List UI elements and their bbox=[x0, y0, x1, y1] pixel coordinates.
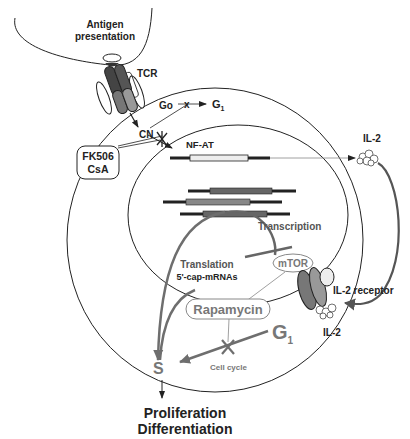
rapamycin-to-mtor-line bbox=[245, 272, 285, 302]
gene-bar-1 bbox=[210, 188, 272, 194]
translation-label: Translation bbox=[180, 259, 233, 270]
t-cell-signaling-diagram: Antigen presentation TCR CN Go x G1 FK50… bbox=[0, 0, 410, 439]
t-cell-membrane bbox=[67, 88, 363, 392]
g1-top-label: G1 bbox=[212, 98, 225, 112]
block-x-go: x bbox=[184, 99, 190, 110]
il2-bottom-label: IL-2 bbox=[323, 327, 341, 338]
s-phase-label: S bbox=[153, 360, 164, 377]
transcription-arc bbox=[225, 212, 275, 255]
csa-label: CsA bbox=[87, 163, 108, 175]
main-grey-arc bbox=[158, 212, 225, 360]
translation-arc bbox=[160, 290, 195, 360]
gene-bar-2 bbox=[186, 199, 250, 205]
rapamycin-label: Rapamycin bbox=[193, 302, 262, 317]
differentiation-label: Differentiation bbox=[138, 421, 233, 437]
il2-receptor-label: IL-2 receptor bbox=[333, 285, 394, 296]
g1-bottom-label: G1 bbox=[272, 321, 294, 346]
mtor-label: mTOR bbox=[278, 258, 309, 269]
mhc-icon bbox=[103, 54, 121, 62]
tcr-label: TCR bbox=[137, 68, 158, 79]
il2-top-label: IL-2 bbox=[363, 133, 381, 144]
proliferation-label: Proliferation bbox=[144, 405, 226, 421]
block-star-icon bbox=[157, 131, 167, 147]
antigen-label: Antigen bbox=[86, 19, 123, 30]
nfat-label: NF-AT bbox=[186, 139, 214, 150]
il2-receptor-icon bbox=[294, 266, 336, 319]
transcription-label: Transcription bbox=[258, 221, 321, 232]
cell-cycle-caption: Cell cycle bbox=[210, 363, 247, 372]
go-label: Go bbox=[159, 100, 173, 111]
il2-cytokine-icon bbox=[357, 150, 378, 166]
nfat-gene bbox=[190, 155, 248, 161]
antigen-presentation-label: presentation bbox=[75, 31, 135, 42]
tcr-to-cn-arrow bbox=[130, 113, 138, 127]
fk506-label: FK506 bbox=[82, 150, 114, 162]
g1-to-s-arrow bbox=[180, 331, 268, 362]
cap-mrna-label: 5'-cap-mRNAs bbox=[176, 272, 237, 282]
